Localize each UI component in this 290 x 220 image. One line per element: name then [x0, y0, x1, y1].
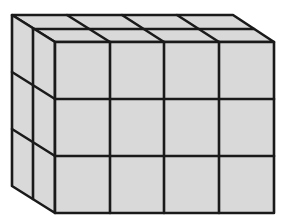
cube-prism-diagram	[0, 0, 290, 220]
